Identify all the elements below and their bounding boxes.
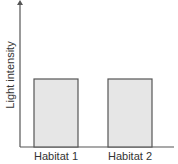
y-axis-label: Light intensity — [4, 41, 16, 109]
x-tick-label: Habitat 1 — [34, 150, 78, 162]
bar-chart: Habitat 1Habitat 2 Light intensity — [0, 0, 178, 164]
bar-habitat-1 — [34, 79, 78, 147]
x-tick-labels: Habitat 1Habitat 2 — [34, 150, 152, 162]
bar-habitat-2 — [108, 79, 152, 147]
x-tick-label: Habitat 2 — [108, 150, 152, 162]
bars — [34, 79, 152, 147]
y-axis-arrow-icon — [17, 0, 23, 5]
